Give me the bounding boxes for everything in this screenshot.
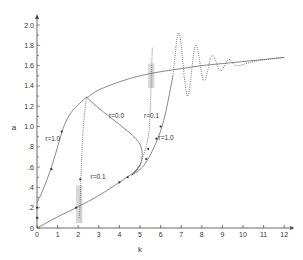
- x-tick-label: 5: [138, 231, 142, 238]
- y-tick-label: .8: [28, 143, 34, 150]
- x-tick-label: 4: [117, 231, 121, 238]
- y-tick-label: 1.2: [24, 103, 34, 110]
- curve-r-1-0-right-curve: [132, 76, 173, 175]
- data-marker: [36, 217, 38, 219]
- curve-r-0-0-backbone-loop: [86, 97, 142, 175]
- y-tick-label: 1.4: [24, 82, 34, 89]
- curves: [36, 33, 284, 228]
- x-tick-label: 2: [76, 231, 80, 238]
- y-tick-label: 0: [30, 225, 34, 232]
- y-axis-arrow-icon: [35, 14, 39, 19]
- chart: 01234567891011120.2.4.6.81.01.21.41.61.8…: [0, 0, 303, 260]
- data-marker: [127, 176, 129, 178]
- y-tick-label: 1.6: [24, 62, 34, 69]
- y-tick-label: .2: [28, 204, 34, 211]
- data-marker: [50, 168, 52, 170]
- curve-label: r=1.0: [159, 134, 174, 141]
- curve-label: r=0.0: [109, 112, 124, 119]
- y-tick-label: .6: [28, 164, 34, 171]
- x-tick-label: 11: [260, 231, 267, 238]
- x-tick-label: 0: [35, 231, 39, 238]
- data-marker: [160, 125, 162, 127]
- curve-label: r=1.0: [45, 135, 60, 142]
- x-tick-label: 8: [200, 231, 204, 238]
- curve-r-1-0-left-curve: [37, 97, 86, 203]
- y-axis-label: a: [12, 123, 17, 132]
- x-tick-label: 3: [97, 231, 101, 238]
- x-axis-arrow-icon: [290, 226, 294, 230]
- x-axis-label: k: [138, 245, 143, 254]
- curve-decaying-oscillation-dotted-: [173, 33, 284, 96]
- data-marker: [145, 158, 147, 160]
- y-tick-label: 2.0: [24, 22, 34, 29]
- data-marker: [79, 178, 81, 180]
- curve-label: r=0.1: [91, 173, 106, 180]
- y-tick-label: 1.0: [24, 123, 34, 130]
- data-marker: [75, 207, 77, 209]
- x-tick-label: 10: [239, 231, 247, 238]
- plot-area: 01234567891011120.2.4.6.81.01.21.41.61.8…: [0, 0, 303, 260]
- x-tick-label: 9: [220, 231, 224, 238]
- x-tick-label: 12: [280, 231, 288, 238]
- data-marker: [36, 207, 38, 209]
- curve-upper-branch-solid-: [86, 57, 284, 98]
- x-tick-label: 6: [159, 231, 163, 238]
- data-marker: [147, 148, 149, 150]
- curve-lower-branch-solid-: [37, 165, 140, 228]
- y-tick-label: 1.8: [24, 42, 34, 49]
- data-marker: [118, 181, 120, 183]
- data-marker: [155, 138, 157, 140]
- y-tick-label: .4: [28, 184, 34, 191]
- curve-label: r=0.1: [144, 112, 159, 119]
- x-tick-label: 7: [179, 231, 183, 238]
- x-tick-label: 1: [56, 231, 60, 238]
- data-marker: [61, 130, 63, 132]
